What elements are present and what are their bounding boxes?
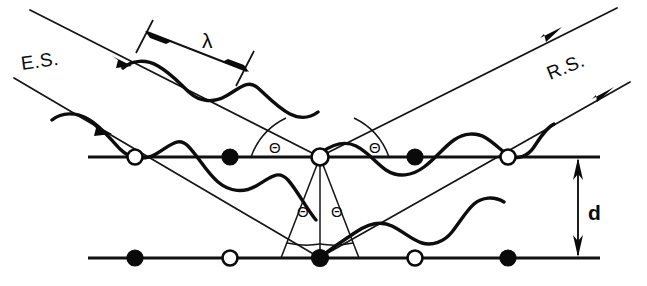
- theta-label-lower-right: Θ: [331, 203, 343, 220]
- atom-filled: [222, 149, 238, 165]
- incident-ray-upper: [30, 10, 322, 158]
- wave-reflected-upper: [322, 124, 554, 175]
- atom-open-scattering-center: [312, 149, 329, 166]
- lattice-planes: [88, 157, 600, 258]
- atom-open: [408, 251, 423, 266]
- theta-label-upper-left: Θ: [269, 139, 281, 156]
- incident-beam-label: E.S.: [20, 48, 60, 74]
- wave-reflected-lower: [322, 198, 504, 256]
- atom-filled: [500, 250, 516, 266]
- incident-rays: [14, 10, 322, 259]
- diagram-canvas: E.S. R.S. λ d Θ Θ Θ Θ: [0, 0, 647, 286]
- wavelength-dimension: [136, 20, 254, 86]
- theta-label-upper-right: Θ: [369, 139, 381, 156]
- lambda-arrowhead-right: [222, 59, 249, 72]
- lambda-arrowhead-left: [145, 31, 172, 44]
- theta-label-lower-left: Θ: [297, 203, 309, 220]
- atom-filled-scattering-center: [312, 250, 329, 267]
- atom-open: [501, 150, 516, 165]
- atom-filled: [127, 250, 143, 266]
- wavelength-label: λ: [202, 29, 213, 52]
- reflected-ray-lower-arrowhead: [592, 87, 614, 102]
- wave-incident-upper: [123, 61, 318, 117]
- spacing-label: d: [588, 201, 601, 224]
- atom-filled: [407, 149, 423, 165]
- bragg-diffraction-figure: E.S. R.S. λ d Θ Θ Θ Θ: [0, 0, 647, 286]
- reflected-ray-lower: [319, 82, 630, 258]
- spacing-dimension: [573, 158, 583, 257]
- wave-incident-lower: [52, 114, 316, 220]
- atom-open: [223, 251, 238, 266]
- incident-ray-upper-arrowhead: [112, 56, 132, 68]
- reflected-ray-upper-arrowhead: [540, 27, 562, 42]
- reflected-beam-label: R.S.: [544, 50, 588, 84]
- atom-open: [128, 150, 143, 165]
- angle-arc-lower-left: [287, 243, 320, 245]
